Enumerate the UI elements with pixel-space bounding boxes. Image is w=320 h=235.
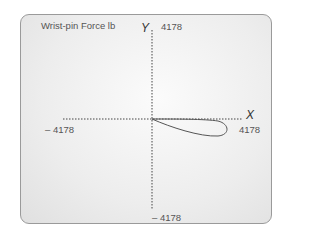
y-min-tick: – 4178: [152, 212, 181, 223]
x-max-tick: 4178: [239, 124, 260, 135]
x-axis-label: X: [246, 108, 254, 122]
y-axis-label: Y: [141, 21, 149, 35]
x-min-tick: – 4178: [45, 124, 74, 135]
force-curve: [152, 119, 227, 136]
y-max-tick: 4178: [161, 21, 182, 32]
chart-title: Wrist-pin Force lb: [41, 20, 115, 31]
